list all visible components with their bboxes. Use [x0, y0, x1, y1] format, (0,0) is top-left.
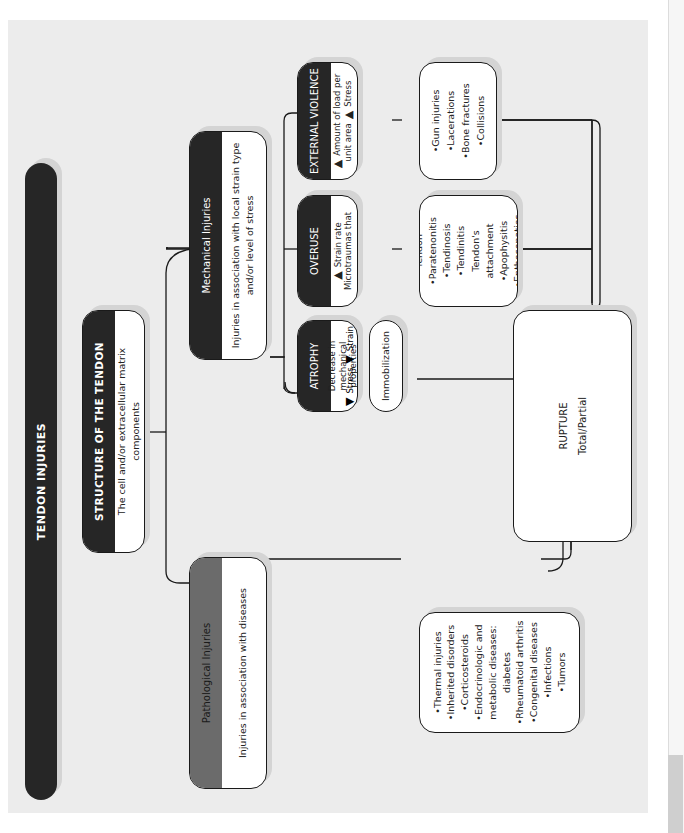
overuse-detail-item: Tendon	[419, 234, 426, 268]
cause-item: •Rheumatoid arthritis	[513, 621, 527, 725]
external-load-indicator: ▲ Amount of load per	[332, 74, 343, 168]
rupture-subheading: Total/Partial	[573, 397, 592, 455]
cause-item: •Thermal injuries	[431, 631, 445, 713]
title-banner: TENDON INJURIES	[25, 163, 57, 800]
title-text: TENDON INJURIES	[35, 423, 48, 541]
overuse-details-node: Tendon •Paratenonitis •Tendinosis •Tendi…	[419, 195, 518, 307]
immobilization-node: Immobilization	[369, 320, 403, 412]
external-causes-node: •Gun injuries •Lacerations •Bone fractur…	[419, 62, 497, 180]
pathological-causes-node: •Thermal injuries •Inherited disorders •…	[419, 612, 580, 733]
atrophy-description-line2: properties	[348, 344, 358, 387]
external-cause-item: •Gun injuries	[428, 90, 443, 153]
overuse-detail-item: •Apophysitis	[497, 221, 511, 282]
external-violence-heading: EXTERNAL VIOLENCE	[298, 63, 331, 179]
structure-node: STRUCTURE OF THE TENDON The cell and/or …	[82, 310, 145, 553]
atrophy-heading: ATROPHY	[298, 321, 331, 411]
overuse-description-line1: Microtraumas that	[343, 212, 353, 290]
rupture-node: RUPTURE Total/Partial	[513, 310, 632, 542]
structure-heading: STRUCTURE OF THE TENDON	[83, 311, 115, 552]
external-stress-label: Stress	[343, 81, 353, 107]
arrow-up-icon: ▲	[343, 111, 354, 119]
overuse-detail-item: Tendon's attachment	[469, 202, 498, 300]
pathological-description: Injuries in association with diseases	[236, 588, 250, 758]
overuse-detail-item: •Tendinosis	[440, 224, 454, 279]
rupture-heading: RUPTURE	[554, 403, 573, 450]
cause-item: •Congenital diseases	[527, 622, 541, 723]
external-cause-item: •Collisions	[473, 96, 488, 146]
immobilization-label: Immobilization	[379, 331, 393, 401]
mechanical-description-line1: Injuries in association with local strai…	[229, 143, 243, 349]
atrophy-node: ATROPHY Decrease in mechanical propertie…	[297, 320, 358, 412]
mechanical-description-line2: and/or level of stress	[243, 196, 257, 296]
cause-item: •Tumors	[555, 653, 569, 693]
cause-item: •Inherited disorders	[444, 625, 458, 720]
overuse-detail-item: •Enthesopaties	[511, 215, 518, 288]
overuse-heading: OVERUSE	[298, 196, 331, 306]
external-load-label-line2: unit area	[343, 123, 353, 161]
cause-item: •Corticosteroids	[458, 634, 472, 711]
external-cause-item: •Bone fractures	[458, 83, 473, 158]
cause-item: •Infections	[541, 647, 555, 699]
atrophy-description-line1: Decrease in mechanical	[327, 327, 348, 405]
mechanical-injuries-node: Mechanical Injuries Injuries in associat…	[189, 131, 267, 360]
pathological-heading: Pathological Injuries	[190, 558, 222, 788]
structure-description: The cell and/or extracellular matrix com…	[115, 317, 143, 546]
overuse-detail-item: •Paratenonitis	[426, 217, 440, 285]
arrow-up-icon: ▲	[332, 160, 343, 168]
overuse-strain-rate-label: Strain rate	[333, 222, 343, 267]
external-stress-indicator: unit area ▲ Stress	[343, 81, 354, 162]
overuse-strain-rate-indicator: ▲ Strain rate	[332, 222, 343, 280]
external-cause-item: •Lacerations	[443, 91, 458, 152]
cause-item: •Endocrinologic and	[472, 624, 486, 720]
external-violence-node: EXTERNAL VIOLENCE ▲ Amount of load per u…	[297, 62, 358, 180]
pathological-injuries-node: Pathological Injuries Injuries in associ…	[189, 557, 267, 789]
mechanical-heading: Mechanical Injuries	[190, 132, 222, 359]
cause-item: diabetes	[500, 652, 514, 693]
overuse-detail-item: •Tendinitis	[454, 226, 468, 276]
overuse-node: OVERUSE ▲ Strain rate Microtraumas that	[297, 195, 358, 307]
arrow-up-icon: ▲	[332, 271, 343, 279]
cause-item: metabolic diseases:	[486, 625, 500, 719]
